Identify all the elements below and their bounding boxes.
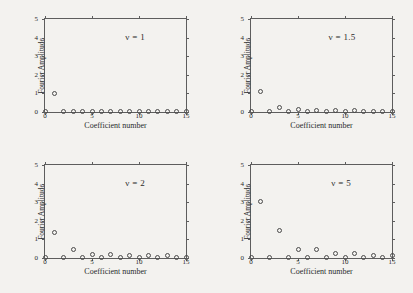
y-tick-label: 4 — [34, 180, 38, 187]
y-tick — [42, 165, 45, 166]
y-tick-right — [392, 239, 395, 240]
x-tick-top — [298, 162, 299, 165]
data-layer — [45, 165, 186, 258]
panel-annotation: ν = 5 — [331, 178, 351, 188]
y-tick — [42, 221, 45, 222]
data-point — [127, 253, 132, 258]
x-tick-top — [139, 16, 140, 19]
y-tick-label: 2 — [240, 217, 244, 224]
data-point — [80, 255, 85, 260]
data-point — [146, 109, 151, 114]
data-point — [108, 252, 113, 257]
y-tick — [42, 93, 45, 94]
panel-annotation: ν = 1.5 — [329, 32, 356, 42]
panel-nu-1p5: Fourier Amplitude Coefficient number ν =… — [206, 0, 412, 146]
y-tick-label: 1 — [240, 90, 244, 97]
data-point — [52, 230, 57, 235]
x-axis-title: Coefficient number — [290, 121, 352, 130]
y-tick-label: 3 — [240, 199, 244, 206]
y-tick — [248, 239, 251, 240]
data-point — [371, 109, 376, 114]
panel-nu-2: Fourier Amplitude Coefficient number ν =… — [0, 146, 206, 292]
data-point — [90, 252, 95, 257]
data-point — [286, 109, 291, 114]
y-axis-title: Fourier Amplitude — [243, 38, 252, 94]
y-tick-label: 0 — [240, 109, 244, 116]
data-point — [80, 109, 85, 114]
data-point — [305, 109, 310, 114]
data-point — [165, 253, 170, 258]
data-point — [286, 255, 291, 260]
data-point — [314, 108, 319, 113]
data-layer — [45, 19, 186, 112]
y-tick-label: 3 — [34, 53, 38, 60]
data-point — [71, 109, 76, 114]
x-tick-label: 5 — [296, 259, 300, 266]
y-tick — [42, 38, 45, 39]
data-point — [174, 109, 179, 114]
y-tick-right — [186, 165, 189, 166]
data-point — [174, 255, 179, 260]
y-tick-right — [392, 221, 395, 222]
data-point — [305, 255, 310, 260]
y-tick-label: 5 — [240, 162, 244, 169]
panel-annotation: ν = 1 — [125, 32, 145, 42]
y-tick-label: 5 — [240, 16, 244, 23]
y-tick — [42, 75, 45, 76]
data-point — [61, 109, 66, 114]
panel-nu-1: Fourier Amplitude Coefficient number ν =… — [0, 0, 206, 146]
x-tick-top — [251, 162, 252, 165]
x-tick-label: 10 — [136, 113, 143, 120]
x-tick-label: 10 — [136, 259, 143, 266]
x-tick-label: 15 — [389, 113, 396, 120]
x-tick-label: 0 — [249, 113, 253, 120]
y-axis-title: Fourier Amplitude — [37, 38, 46, 94]
data-layer — [251, 19, 392, 112]
data-point — [155, 109, 160, 114]
x-tick-top — [186, 162, 187, 165]
x-axis-title: Coefficient number — [84, 121, 146, 130]
y-tick — [42, 19, 45, 20]
x-tick-top — [345, 162, 346, 165]
x-tick-top — [298, 16, 299, 19]
y-tick-right — [392, 56, 395, 57]
x-tick-top — [186, 16, 187, 19]
y-tick — [248, 75, 251, 76]
data-point — [99, 109, 104, 114]
y-tick-right — [186, 75, 189, 76]
y-tick-label: 3 — [240, 53, 244, 60]
data-point — [267, 255, 272, 260]
y-tick-label: 1 — [240, 236, 244, 243]
y-tick — [248, 56, 251, 57]
y-tick-right — [186, 184, 189, 185]
y-tick — [42, 56, 45, 57]
y-tick-label: 0 — [34, 109, 38, 116]
x-tick-label: 10 — [342, 113, 349, 120]
y-tick-label: 4 — [240, 180, 244, 187]
x-tick-label: 10 — [342, 259, 349, 266]
y-tick-right — [186, 38, 189, 39]
panel-nu-5: Fourier Amplitude Coefficient number ν =… — [206, 146, 412, 292]
y-tick-right — [392, 184, 395, 185]
y-tick-right — [392, 19, 395, 20]
x-tick-label: 0 — [43, 259, 47, 266]
x-tick-top — [392, 162, 393, 165]
x-tick-top — [251, 16, 252, 19]
data-point — [99, 255, 104, 260]
x-tick-top — [139, 162, 140, 165]
data-point — [361, 109, 366, 114]
data-point — [108, 109, 113, 114]
y-tick — [248, 165, 251, 166]
y-tick-right — [186, 202, 189, 203]
data-point — [314, 247, 319, 252]
data-point — [52, 91, 57, 96]
data-point — [324, 255, 329, 260]
x-tick-label: 0 — [43, 113, 47, 120]
data-layer — [251, 165, 392, 258]
data-point — [71, 247, 76, 252]
x-tick-top — [92, 16, 93, 19]
y-tick-label: 1 — [34, 236, 38, 243]
y-tick — [42, 202, 45, 203]
y-tick-label: 5 — [34, 16, 38, 23]
data-point — [258, 89, 263, 94]
